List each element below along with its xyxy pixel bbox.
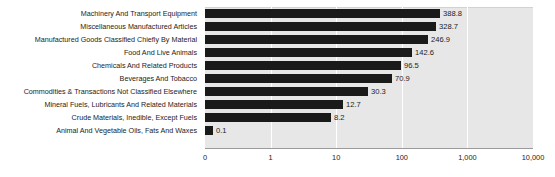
x-axis-tick-label: 0 (203, 152, 207, 164)
bar (205, 74, 392, 83)
bar (205, 22, 436, 31)
category-label: Machinery And Transport Equipment (81, 7, 197, 20)
gridline (533, 7, 534, 148)
bar (205, 35, 428, 44)
bar-value-label: 30.3 (368, 86, 386, 97)
x-axis-tick-label: 1 (269, 152, 273, 164)
bar-row: 142.6 (205, 46, 533, 59)
bar-row: 388.8 (205, 7, 533, 20)
bar-row: 8.2 (205, 111, 533, 124)
bar-value-label: 96.5 (401, 60, 419, 71)
bar-row: 0.1 (205, 124, 533, 137)
category-label: Crude Materials, Inedible, Except Fuels (72, 111, 197, 124)
bar-row: 96.5 (205, 59, 533, 72)
bar-value-label: 12.7 (343, 99, 361, 110)
bar (205, 61, 401, 70)
bar (205, 113, 331, 122)
bar (205, 100, 343, 109)
bar-value-label: 388.8 (440, 8, 462, 19)
bar (205, 9, 440, 18)
bar-value-label: 8.2 (331, 112, 345, 123)
bar-row: 70.9 (205, 72, 533, 85)
category-axis-labels: Machinery And Transport EquipmentMiscell… (0, 7, 201, 148)
category-label: Beverages And Tobacco (120, 72, 197, 85)
horizontal-bar-chart: Machinery And Transport EquipmentMiscell… (0, 0, 555, 177)
category-label: Chemicals And Related Products (92, 59, 197, 72)
bar-value-label: 70.9 (392, 73, 410, 84)
category-label: Food And Live Animals (124, 46, 197, 59)
bar-row: 12.7 (205, 98, 533, 111)
category-label: Mineral Fuels, Lubricants And Related Ma… (44, 98, 197, 111)
bar-value-label: 328.7 (436, 21, 458, 32)
bar (205, 126, 213, 135)
x-axis-line (205, 148, 533, 149)
x-axis-tick-labels: 01101001,00010,000 (0, 152, 555, 166)
category-label: Manufactured Goods Classified Chiefly By… (35, 33, 197, 46)
category-label: Miscellaneous Manufactured Articles (80, 20, 197, 33)
bar-value-label: 142.6 (412, 47, 434, 58)
category-label: Commodities & Transactions Not Classifie… (24, 85, 197, 98)
bar-row: 30.3 (205, 85, 533, 98)
bar (205, 48, 412, 57)
bar-row: 246.9 (205, 33, 533, 46)
x-axis-tick-label: 1,000 (458, 152, 477, 164)
category-label: Animal And Vegetable Oils, Fats And Waxe… (56, 124, 197, 137)
bar-value-label: 0.1 (213, 125, 227, 136)
bar-value-label: 246.9 (428, 34, 450, 45)
bar-row: 328.7 (205, 20, 533, 33)
x-axis-tick-label: 100 (396, 152, 408, 164)
x-axis-tick-label: 10 (332, 152, 340, 164)
bar (205, 87, 368, 96)
plot-area: 388.8328.7246.9142.696.570.930.312.78.20… (205, 7, 533, 148)
x-axis-tick-label: 10,000 (522, 152, 545, 164)
